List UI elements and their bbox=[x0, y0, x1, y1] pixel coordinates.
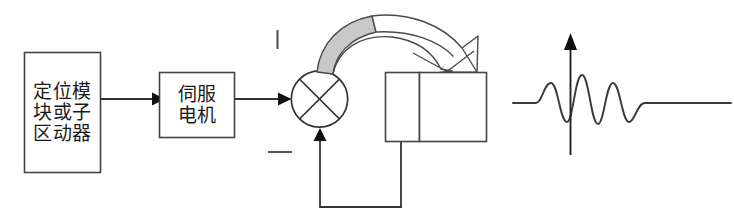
load-box-right bbox=[420, 73, 487, 142]
connector-module-to-servo bbox=[100, 93, 165, 106]
servo-motor-block bbox=[160, 73, 235, 138]
waveform-trace bbox=[513, 75, 731, 124]
positioning-module-block bbox=[25, 53, 101, 173]
curved-rotation-arrow bbox=[317, 15, 478, 74]
connector-servo-to-junction bbox=[235, 93, 292, 106]
load-box-left bbox=[386, 73, 420, 142]
summing-junction bbox=[291, 71, 347, 127]
diagram-svg bbox=[0, 0, 734, 222]
vibration-response-waveform bbox=[513, 33, 731, 155]
curved-arrow-filled-segment bbox=[317, 16, 376, 74]
diagram-canvas: 定位模 块或子 区动器 伺服 电机 bbox=[0, 0, 734, 222]
